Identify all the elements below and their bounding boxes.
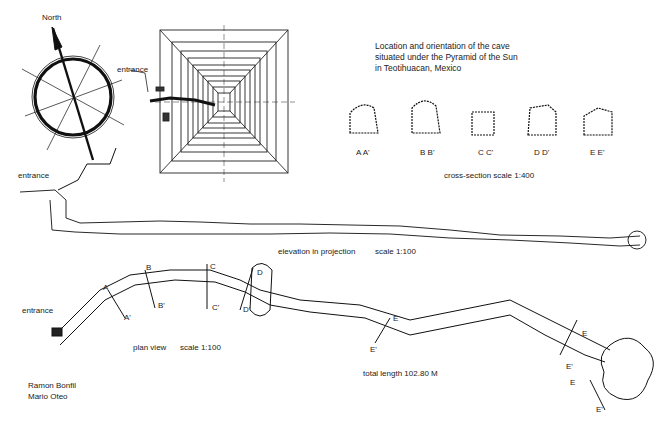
cross-section-scale: cross-section scale 1:400 bbox=[444, 171, 534, 181]
title-line-2: situated under the Pyramid of the Sun bbox=[375, 52, 518, 63]
cross-section-shapes bbox=[350, 101, 612, 135]
author-2: Mario Oteo bbox=[28, 392, 68, 402]
section-label-bb: B B' bbox=[420, 148, 434, 157]
section-label-ee: E E' bbox=[590, 148, 604, 157]
section-label-dd: D D' bbox=[534, 148, 549, 157]
plan-view-passage bbox=[52, 263, 653, 410]
compass-rose-icon bbox=[22, 27, 124, 160]
author-1: Ramon Bonfil bbox=[28, 381, 76, 391]
section-label-cc: C C' bbox=[478, 148, 493, 157]
diagram-title: Location and orientation of the cave sit… bbox=[375, 41, 518, 74]
marker-d-prime: D' bbox=[243, 305, 250, 314]
plan-view-scale: scale 1:100 bbox=[180, 343, 221, 353]
elevation-caption: elevation in projection bbox=[278, 247, 355, 257]
compass-north-label: North bbox=[42, 13, 62, 23]
section-label-aa: A A' bbox=[356, 148, 370, 157]
marker-b: B bbox=[146, 263, 151, 272]
elevation-scale: scale 1:100 bbox=[375, 247, 416, 257]
marker-e-prime: E' bbox=[370, 345, 377, 354]
title-line-1: Location and orientation of the cave bbox=[375, 41, 518, 52]
elevation-entrance-label: entrance bbox=[18, 171, 49, 181]
marker-a: A bbox=[103, 283, 108, 292]
plan-view-caption: plan view bbox=[133, 343, 166, 353]
total-length: total length 102.80 M bbox=[363, 369, 438, 379]
marker-e2: E bbox=[582, 329, 587, 338]
marker-e3: E bbox=[570, 378, 575, 387]
marker-c: C bbox=[210, 262, 216, 271]
pyramid-entrance-label: entrance bbox=[117, 65, 148, 75]
pyramid-plan bbox=[150, 25, 295, 182]
marker-b-prime: B' bbox=[158, 301, 165, 310]
marker-c-prime: C' bbox=[212, 303, 219, 312]
marker-d: D bbox=[257, 268, 263, 277]
marker-e3-prime: E' bbox=[596, 405, 603, 414]
title-line-3: in Teotihuacan, Mexico bbox=[375, 63, 518, 74]
plan-entrance-label: entrance bbox=[22, 306, 53, 316]
marker-e2-prime: E' bbox=[566, 362, 573, 371]
marker-a-prime: A' bbox=[124, 313, 131, 322]
elevation-profile bbox=[20, 190, 646, 249]
marker-e: E bbox=[393, 314, 398, 323]
